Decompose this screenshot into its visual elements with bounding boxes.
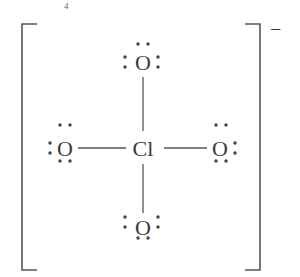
right-bracket [245,24,260,270]
charge-sign: − [270,18,281,40]
atom-o-bottom-symbol: O [135,215,151,240]
left-bracket [22,24,37,270]
atom-o-bottom: O [123,215,159,240]
atom-o-left: O [48,123,73,162]
subscript-fragment: 4 [64,1,69,11]
atom-o-top-symbol: O [135,50,151,75]
atom-o-right: O [212,123,237,162]
atom-o-top: O [123,42,159,75]
atom-cl-central: Cl [133,136,154,161]
atom-o-right-symbol: O [212,136,228,161]
lewis-structure-diagram: 4 − Cl O O O O [0,0,300,277]
atom-o-left-symbol: O [57,136,73,161]
